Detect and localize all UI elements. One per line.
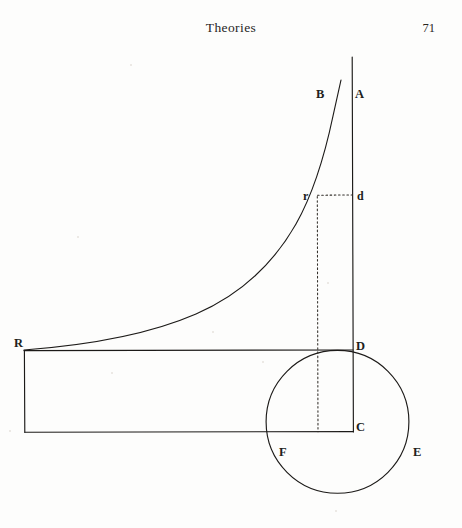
vertical-axis-line: [352, 57, 353, 432]
label-f: F: [279, 446, 287, 459]
rectangle-bottom-edge: [25, 432, 354, 433]
rectangle-top-edge-rd: [24, 350, 353, 351]
circle-dfe: [266, 350, 409, 493]
label-a: A: [355, 88, 364, 101]
geometric-diagram: B A r d R D C F E: [0, 0, 462, 528]
label-c: C: [356, 421, 365, 434]
dotted-line-r-vertical: [317, 197, 318, 432]
label-b: B: [316, 88, 324, 101]
asymptotic-curve-rb: [24, 80, 341, 350]
label-d-lower: d: [357, 190, 364, 202]
label-e: E: [413, 446, 421, 459]
diagram-canvas: [0, 0, 462, 528]
label-r-upper: R: [14, 337, 23, 350]
label-d-upper: D: [356, 340, 365, 353]
book-page: Theories 71: [0, 0, 462, 528]
label-r-lower: r: [303, 190, 308, 202]
